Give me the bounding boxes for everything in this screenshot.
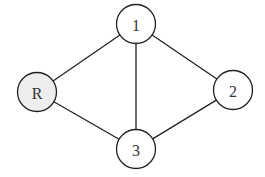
nodes-layer: R123 xyxy=(18,5,253,169)
node-R: R xyxy=(18,73,57,112)
node-label: 1 xyxy=(132,17,140,34)
edge-1-2 xyxy=(152,35,217,79)
node-1: 1 xyxy=(117,5,156,44)
edge-3-2 xyxy=(153,100,217,139)
node-3: 3 xyxy=(117,130,156,169)
node-label: 3 xyxy=(132,142,140,159)
graph-canvas: R123 xyxy=(0,0,265,177)
node-2: 2 xyxy=(214,71,253,110)
node-label: 2 xyxy=(229,83,237,100)
node-label: R xyxy=(32,85,43,102)
edge-R-3 xyxy=(54,102,119,140)
edge-R-1 xyxy=(53,35,120,81)
graph-diagram: R123 xyxy=(0,0,265,177)
edges-layer xyxy=(53,35,217,139)
